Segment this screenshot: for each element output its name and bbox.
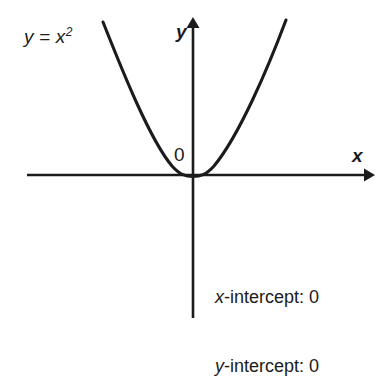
- parabola-curve-group: [103, 20, 286, 177]
- x-axis-label: x: [352, 146, 363, 165]
- y-intercept-variable: y: [215, 356, 224, 376]
- curve-equation-label: y = x2: [24, 26, 73, 46]
- curve-equation-exponent: 2: [66, 25, 73, 39]
- origin-label: 0: [174, 145, 185, 164]
- x-axis-arrowhead: [364, 169, 375, 182]
- parabola-curve: [103, 20, 286, 177]
- curve-equation-operator: =: [34, 26, 56, 47]
- y-intercept-line: y-intercept: 0: [215, 355, 319, 378]
- x-intercept-line: x-intercept: 0: [215, 286, 319, 309]
- curve-equation-base: x: [56, 26, 66, 47]
- x-intercept-variable: x: [215, 287, 224, 307]
- curve-equation-variable: y: [24, 26, 34, 47]
- intercepts-annotation: x-intercept: 0 y-intercept: 0: [215, 240, 319, 380]
- axes-group: [27, 17, 375, 318]
- x-intercept-text: -intercept: 0: [224, 287, 319, 307]
- y-axis-arrowhead: [187, 17, 200, 28]
- y-axis-label: y: [176, 22, 187, 41]
- y-intercept-text: -intercept: 0: [224, 356, 319, 376]
